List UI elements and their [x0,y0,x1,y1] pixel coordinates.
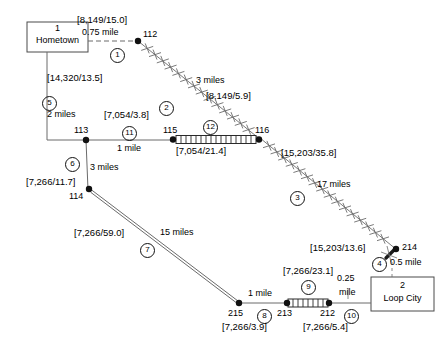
node-label-114: 114 [69,192,83,201]
hometown-number: 1 [27,24,88,33]
node-label-215: 215 [228,309,243,318]
link-number-2: 2 [159,101,174,116]
bracket-label-link-12: [7,054/21.4] [176,146,226,156]
distance-label-link-2: 3 miles [196,76,225,85]
bracket-label-link-1: [8,149/15.0] [77,15,127,25]
node-label-213: 213 [277,309,292,318]
node-dot-215 [236,300,242,306]
link-number-6: 6 [65,157,80,172]
bracket-label-link-10: [7,266/5.4] [303,322,348,332]
link-number-3: 3 [290,191,305,206]
bracket-label-link-3: [15,203/35.8] [281,148,336,158]
node-label-212: 212 [320,309,335,318]
distance-label-link-8: 1 mile [248,289,272,298]
loopcity-name: Loop City [371,294,434,303]
link-number-4: 4 [372,257,387,272]
distance-label-link-6: 3 miles [90,163,119,172]
node-dot-214 [393,246,399,252]
node-dot-115 [170,136,176,142]
node-label-116: 116 [255,126,269,135]
link-12-hatched [176,136,256,144]
node-dot-213 [284,300,290,306]
bracket-label-link-6: [7,266/11.7] [26,177,75,187]
distance-label-link-3: 17 miles [317,180,351,189]
bracket-label-link-7: [7,266/59.0] [74,228,124,238]
node-label-112: 112 [143,30,157,39]
distance-label-link-10-value: 0.25 [337,274,355,283]
bracket-label-link-11: [7,054/3.8] [104,110,149,120]
link-number-9: 9 [301,280,316,295]
node-dot-112 [135,38,141,44]
link-7-double [89,188,240,306]
distance-label-link-5: 2 miles [47,110,76,119]
node-label-214: 214 [402,243,417,252]
node-label-115: 115 [163,126,177,135]
link-9-hatched [288,299,328,307]
network-diagram: 1 Hometown 2 Loop City 112 113 115 116 1… [0,0,442,349]
node-dot-114 [86,186,92,192]
link-number-11: 11 [122,126,137,141]
node-dot-212 [326,300,332,306]
distance-label-link-7: 15 miles [160,228,194,237]
distance-label-link-10-unit: mile [339,288,356,297]
bracket-label-link-4: [15,203/13.6] [310,243,365,253]
bracket-label-link-2: [8,149/5.9] [206,91,251,101]
bracket-label-link-9: [7,266/23.1] [283,266,333,276]
bracket-label-link-8: [7,266/3.9] [222,322,267,332]
distance-label-link-11: 1 mile [117,144,141,153]
node-dot-113 [83,137,89,143]
link-number-7: 7 [140,243,155,258]
distance-label-link-4: 0.5 mile [390,258,422,267]
distance-label-link-1: 0.75 mile [82,28,119,37]
node-dot-116 [256,136,262,142]
link-6-line [86,140,88,190]
loopcity-number: 2 [371,281,434,290]
node-label-113: 113 [74,126,88,135]
bracket-label-link-5: [14,320/13.5] [47,73,102,83]
link-number-12: 12 [203,120,218,135]
hometown-name: Hometown [27,36,88,45]
link-number-1: 1 [110,48,125,63]
